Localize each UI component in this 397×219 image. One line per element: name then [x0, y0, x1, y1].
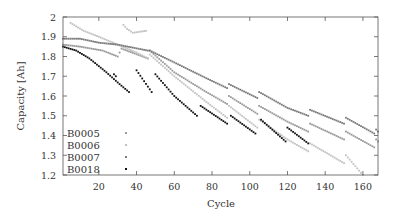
data-point	[354, 122, 356, 124]
data-point	[281, 137, 283, 139]
data-point	[94, 34, 96, 36]
data-point	[288, 108, 290, 110]
data-point	[194, 84, 196, 86]
data-point	[239, 122, 241, 124]
data-point	[309, 143, 311, 145]
data-point	[77, 38, 79, 40]
data-point	[141, 30, 143, 32]
data-point	[100, 37, 102, 39]
data-point	[366, 128, 368, 130]
data-point	[334, 134, 336, 136]
data-point	[160, 64, 162, 66]
data-point	[136, 47, 138, 49]
data-point	[117, 44, 119, 46]
data-point	[79, 38, 81, 40]
data-point	[98, 36, 100, 38]
data-point	[249, 121, 251, 123]
data-point	[349, 119, 351, 121]
data-point	[134, 32, 136, 34]
data-point	[228, 105, 230, 107]
data-point	[192, 90, 194, 92]
data-point	[179, 80, 181, 82]
data-point	[287, 139, 289, 141]
data-point	[232, 108, 234, 110]
data-point	[81, 38, 83, 40]
data-point	[234, 86, 236, 88]
data-point	[121, 48, 123, 50]
data-point	[145, 49, 147, 51]
data-point	[309, 123, 311, 125]
data-point	[100, 67, 102, 69]
data-point	[243, 117, 245, 119]
data-point	[100, 49, 102, 51]
data-point	[87, 56, 89, 58]
data-point	[164, 84, 166, 86]
data-point	[168, 66, 170, 68]
data-point	[87, 39, 89, 41]
data-point	[94, 48, 96, 50]
data-point	[302, 138, 304, 140]
data-point	[141, 55, 143, 57]
data-point	[254, 133, 256, 135]
data-point	[119, 83, 121, 85]
data-point	[204, 76, 206, 78]
data-point	[124, 26, 126, 28]
data-point	[145, 83, 147, 85]
data-point	[245, 106, 247, 108]
data-point	[360, 125, 362, 127]
data-point	[349, 133, 351, 135]
data-point	[113, 54, 115, 56]
data-point	[107, 73, 109, 75]
data-point	[168, 89, 170, 91]
data-point	[260, 106, 262, 108]
data-point	[341, 138, 343, 140]
data-point	[175, 73, 177, 75]
data-point	[204, 108, 206, 110]
data-point	[339, 137, 341, 139]
data-point	[283, 105, 285, 107]
data-point	[339, 121, 341, 123]
data-point	[145, 57, 147, 59]
data-point	[251, 109, 253, 111]
data-point	[264, 122, 266, 124]
data-point	[124, 45, 126, 47]
data-point	[368, 143, 370, 145]
data-point	[219, 99, 221, 101]
data-point	[339, 160, 341, 162]
data-point	[260, 92, 262, 94]
data-point	[185, 67, 187, 69]
data-point	[104, 42, 106, 44]
data-point	[66, 47, 68, 49]
data-point	[128, 91, 130, 93]
data-point	[234, 118, 236, 120]
data-point	[311, 144, 313, 146]
data-point	[102, 42, 104, 44]
data-point	[173, 75, 175, 77]
data-point	[373, 133, 375, 135]
data-point	[143, 56, 145, 58]
data-point	[181, 81, 183, 83]
data-point	[262, 107, 264, 109]
data-point	[336, 158, 338, 160]
data-point	[143, 49, 145, 51]
data-point	[322, 114, 324, 116]
x-tick-label: 80	[206, 181, 218, 192]
data-point	[271, 129, 273, 131]
data-point	[258, 105, 260, 107]
data-point	[153, 51, 155, 53]
data-point	[343, 162, 345, 164]
data-point	[285, 120, 287, 122]
data-point	[200, 75, 202, 77]
legend-label: B0005	[67, 128, 100, 139]
data-point	[309, 109, 311, 111]
data-point	[268, 110, 270, 112]
data-point	[66, 38, 68, 40]
data-point	[162, 82, 164, 84]
data-point	[343, 139, 345, 141]
data-point	[145, 30, 147, 32]
data-point	[262, 120, 264, 122]
data-point	[330, 132, 332, 134]
data-point	[285, 106, 287, 108]
data-point	[77, 46, 79, 48]
data-point	[126, 48, 128, 50]
